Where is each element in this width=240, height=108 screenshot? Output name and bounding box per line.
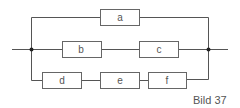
block-b: b — [63, 42, 102, 58]
block-e-label: e — [117, 75, 123, 86]
block-c-label: c — [157, 44, 162, 55]
block-e: e — [101, 73, 140, 89]
block-diagram: a b c d e f — [0, 0, 240, 108]
block-d: d — [43, 73, 82, 89]
block-c: c — [140, 42, 179, 58]
block-a: a — [101, 10, 140, 26]
block-f: f — [149, 73, 187, 89]
left-junction-node — [30, 48, 34, 52]
right-junction-node — [207, 48, 211, 52]
block-b-label: b — [78, 44, 84, 55]
block-d-label: d — [59, 75, 65, 86]
block-f-label: f — [166, 75, 169, 86]
figure-caption: Bild 37 — [193, 94, 227, 106]
block-a-label: a — [117, 12, 123, 23]
